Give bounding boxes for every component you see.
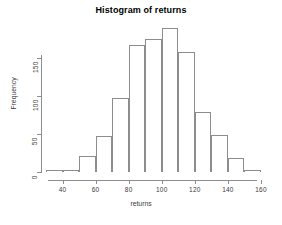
y-axis-tick <box>37 172 41 173</box>
x-axis-tick-label: 100 <box>152 186 172 193</box>
x-axis-tick-label: 80 <box>119 186 139 193</box>
histogram-bar <box>129 45 146 172</box>
x-axis-tick <box>195 180 196 184</box>
x-axis-tick <box>129 180 130 184</box>
histogram-bar <box>228 158 245 172</box>
y-axis-tick <box>37 134 41 135</box>
histogram-bar <box>96 136 113 172</box>
x-axis-tick <box>63 180 64 184</box>
histogram-bar <box>79 156 96 172</box>
histogram-bar <box>211 135 228 172</box>
plot-area <box>46 28 261 172</box>
x-axis-tick <box>228 180 229 184</box>
y-axis-tick-label: 150 <box>32 62 39 73</box>
histogram-bar <box>195 112 212 172</box>
x-axis-tick-label: 120 <box>185 186 205 193</box>
x-axis-tick-label: 40 <box>53 186 73 193</box>
chart-title: Histogram of returns <box>0 5 282 15</box>
y-axis-tick-label: 50 <box>32 138 39 146</box>
x-axis-tick-label: 140 <box>218 186 238 193</box>
y-axis-line <box>41 55 42 173</box>
histogram-bar <box>244 170 261 172</box>
histogram-bar <box>145 39 162 172</box>
x-axis-tick-label: 160 <box>251 186 271 193</box>
histogram-bar <box>63 170 80 172</box>
y-axis-title: Frequency <box>10 64 17 124</box>
x-axis-tick <box>162 180 163 184</box>
y-axis-tick <box>37 96 41 97</box>
histogram-bar <box>46 170 63 172</box>
histogram-bar <box>178 52 195 172</box>
histogram-bar <box>112 98 129 172</box>
y-axis-tick-label: 0 <box>32 176 39 180</box>
x-axis-tick <box>261 180 262 184</box>
y-axis-tick <box>37 58 41 59</box>
y-axis-tick-label: 100 <box>32 100 39 111</box>
x-axis-tick <box>96 180 97 184</box>
histogram-bar <box>162 28 179 172</box>
x-axis-line <box>48 180 257 181</box>
x-axis-tick-label: 60 <box>86 186 106 193</box>
x-axis-title: returns <box>0 200 282 207</box>
histogram-plot: Histogram of returns 050100150 Frequency… <box>0 0 282 225</box>
